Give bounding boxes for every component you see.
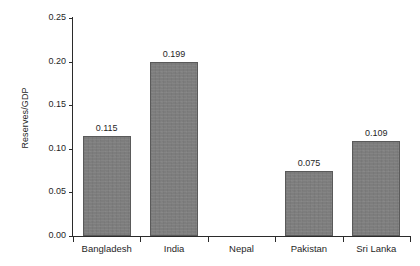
y-axis-tick: 0.15 xyxy=(0,105,73,106)
y-axis-tick: 0.00 xyxy=(0,236,73,237)
x-axis-tick-mark xyxy=(208,237,209,242)
x-axis-tick-mark xyxy=(73,237,74,242)
bar-chart: Reserves/GDP 0.000.050.100.150.200.25 0.… xyxy=(0,0,420,266)
y-axis-tick: 0.10 xyxy=(0,149,73,150)
x-axis-line xyxy=(72,236,411,237)
x-axis-tick-mark xyxy=(140,237,141,242)
y-axis-tick-label: 0.00 xyxy=(48,230,66,241)
y-axis-tick: 0.20 xyxy=(0,62,73,63)
bar xyxy=(285,171,333,236)
y-axis-tick: 0.05 xyxy=(0,192,73,193)
bar xyxy=(83,136,131,236)
y-axis-tick: 0.25 xyxy=(0,18,73,19)
y-axis-tick-label: 0.20 xyxy=(48,56,66,67)
y-axis-tick-label: 0.25 xyxy=(48,12,66,23)
bar xyxy=(150,62,198,236)
x-axis-tick-mark xyxy=(275,237,276,242)
x-axis-tick-mark xyxy=(343,237,344,242)
y-axis-title-text: Reserves/GDP xyxy=(20,87,30,148)
bar xyxy=(352,141,400,236)
y-axis-tick-label: 0.05 xyxy=(48,186,66,197)
x-axis-category-label: Sri Lanka xyxy=(336,243,416,255)
plot-area: 0.1150.1990.0750.109 xyxy=(73,18,410,236)
y-axis-tick-label: 0.10 xyxy=(48,143,66,154)
x-axis-tick-mark xyxy=(410,237,411,242)
y-axis-title: Reserves/GDP xyxy=(18,0,32,236)
bar-value-label: 0.075 xyxy=(279,158,339,169)
bar-value-label: 0.199 xyxy=(144,49,204,60)
bar-value-label: 0.109 xyxy=(346,128,406,139)
y-axis-tick-label: 0.15 xyxy=(48,99,66,110)
bar-value-label: 0.115 xyxy=(77,123,137,134)
